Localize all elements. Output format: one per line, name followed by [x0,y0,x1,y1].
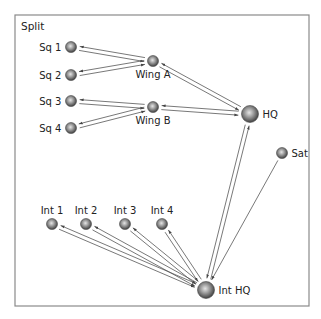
diagram-title: Split [21,20,44,32]
node-label: Sq 3 [39,96,61,107]
node-label: Sq 4 [39,123,61,134]
node-circle-icon [242,106,259,123]
node-sat: Sat [277,148,308,159]
node-circle-icon [157,219,168,230]
node-circle-icon [148,56,159,67]
node-sq2: Sq 2 [39,70,76,81]
node-sq4: Sq 4 [39,123,76,134]
node-circle-icon [66,70,77,81]
node-circle-icon [66,96,77,107]
node-circle-icon [198,282,215,299]
node-circle-icon [66,123,77,134]
node-label: Int 4 [151,205,174,216]
node-circle-icon [81,219,92,230]
node-label: Wing B [135,115,170,126]
node-sq1: Sq 1 [39,42,76,53]
node-label: Int 1 [41,205,64,216]
node-circle-icon [277,148,288,159]
node-sq3: Sq 3 [39,96,76,107]
node-label: HQ [263,109,279,120]
node-label: Sq 2 [39,70,61,81]
node-label: Sq 1 [39,42,61,53]
node-circle-icon [66,42,77,53]
node-label: Sat [292,148,308,159]
node-circle-icon [148,102,159,113]
diagram-frame [15,15,309,306]
node-circle-icon [47,219,58,230]
node-label: Int 2 [75,205,98,216]
split-network-diagram: Split Sq 1Sq 2Sq 3Sq 4Wing AWing BHQSatI… [0,0,321,319]
node-label: Int HQ [219,285,251,296]
node-label: Wing A [135,69,170,80]
node-circle-icon [120,219,131,230]
node-label: Int 3 [114,205,137,216]
